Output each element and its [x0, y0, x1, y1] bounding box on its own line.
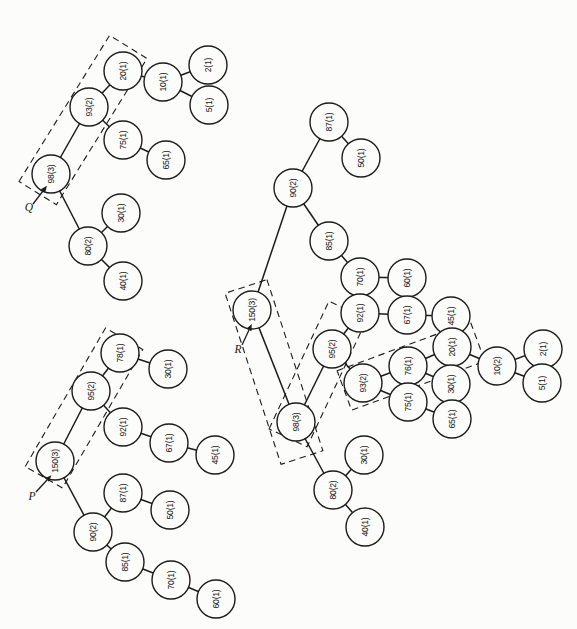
node-key-label: 20(1) — [118, 61, 128, 80]
node-key-label: 45(1) — [446, 306, 456, 325]
tree-node-q-40: 40(1) — [104, 262, 142, 300]
tree-node-r-75: 75(1) — [389, 383, 427, 421]
node-key-label: 60(1) — [211, 589, 221, 608]
tree-node-p-67: 67(1) — [150, 424, 188, 462]
tree-node-q-20: 20(1) — [104, 52, 142, 90]
node-key-label: 76(1) — [403, 356, 413, 375]
node-key-label: 20(1) — [447, 337, 457, 356]
node-key-label: 80(2) — [328, 480, 338, 499]
tree-p: 150(3)95(2)78(1)30(1)92(1)67(1)45(1)90(2… — [25, 328, 235, 618]
tree-node-q-5: 5(1) — [190, 86, 228, 124]
pointer-q: Q — [25, 186, 47, 213]
pointer-letter: Q — [25, 201, 34, 213]
node-key-label: 50(1) — [165, 500, 175, 519]
tree-node-r-40: 40(1) — [346, 508, 384, 546]
tree-node-r-93: 93(2) — [344, 364, 382, 402]
node-key-label: 78(1) — [115, 343, 125, 362]
tree-node-p-87: 87(1) — [104, 474, 142, 512]
tree-node-p-70: 70(1) — [152, 561, 190, 599]
tree-node-r-2: 2(1) — [524, 330, 562, 368]
tree-node-q-80: 80(2) — [69, 227, 107, 265]
node-key-label: 70(1) — [355, 267, 365, 286]
node-key-label: 30(1) — [359, 445, 369, 464]
tree-node-r-90: 90(2) — [274, 169, 312, 207]
node-key-label: 2(1) — [203, 57, 213, 72]
pointer-letter: R — [233, 343, 241, 355]
node-key-label: 87(1) — [118, 483, 128, 502]
node-key-label: 30(1) — [163, 359, 173, 378]
tree-node-q-65: 65(1) — [147, 141, 185, 179]
tree-node-p-78: 78(1) — [101, 334, 139, 372]
tree-node-r-150: 150(3) — [233, 291, 271, 329]
pointer-letter: P — [27, 490, 35, 502]
node-key-label: 65(1) — [447, 409, 457, 428]
tree-q: 98(3)93(2)20(1)10(1)2(1)5(1)75(1)65(1)80… — [19, 35, 228, 300]
tree-node-q-30: 30(1) — [102, 194, 140, 232]
node-key-label: 40(1) — [360, 517, 370, 536]
tree-node-r-5: 5(1) — [523, 364, 561, 402]
node-key-label: 60(1) — [402, 268, 412, 287]
tree-node-r-85: 85(1) — [310, 222, 348, 260]
node-key-label: 75(1) — [403, 392, 413, 411]
node-key-label: 98(3) — [291, 412, 301, 431]
node-key-label: 40(1) — [118, 271, 128, 290]
tree-node-r-87: 87(1) — [310, 103, 348, 141]
tree-node-p-92: 92(1) — [104, 408, 142, 446]
node-key-label: 5(1) — [537, 375, 547, 390]
heap-forest-diagram: 98(3)93(2)20(1)10(1)2(1)5(1)75(1)65(1)80… — [0, 0, 577, 629]
tree-node-q-98: 98(3) — [32, 155, 70, 193]
node-key-label: 150(3) — [247, 298, 257, 322]
node-key-label: 50(1) — [356, 148, 366, 167]
pointer-arrow-line — [36, 480, 47, 492]
node-key-label: 30(1) — [116, 203, 126, 222]
node-key-label: 93(2) — [84, 97, 94, 116]
node-key-label: 90(2) — [88, 522, 98, 541]
tree-node-r-70: 70(1) — [341, 258, 379, 296]
node-key-label: 67(1) — [164, 433, 174, 452]
tree-r: 150(3)90(2)87(1)50(1)85(1)70(1)60(1)98(3… — [225, 103, 562, 546]
tree-node-p-150: 150(3) — [36, 442, 74, 480]
node-key-label: 85(1) — [324, 231, 334, 250]
node-key-label: 98(3) — [46, 164, 56, 183]
node-key-label: 90(2) — [288, 178, 298, 197]
tree-node-r-67: 67(1) — [388, 296, 426, 334]
node-key-label: 10(1) — [158, 72, 168, 91]
node-key-label: 95(2) — [327, 339, 337, 358]
tree-node-q-93: 93(2) — [70, 88, 108, 126]
tree-node-p-50: 50(1) — [151, 491, 189, 529]
tree-node-r-80: 80(2) — [314, 471, 352, 509]
tree-node-r-50: 50(1) — [342, 139, 380, 177]
node-key-label: 80(2) — [83, 236, 93, 255]
tree-node-p-45: 45(1) — [196, 436, 234, 474]
node-key-label: 67(1) — [402, 305, 412, 324]
node-key-label: 92(1) — [355, 303, 365, 322]
tree-node-q-75: 75(1) — [104, 121, 142, 159]
tree-node-p-60: 60(1) — [197, 580, 235, 618]
node-key-label: 65(1) — [161, 150, 171, 169]
tree-node-r-92: 92(1) — [341, 294, 379, 332]
node-key-label: 150(3) — [50, 449, 60, 473]
tree-node-p-90: 90(2) — [74, 513, 112, 551]
tree-node-q-10: 10(1) — [144, 63, 182, 101]
node-key-label: 95(2) — [86, 381, 96, 400]
tree-node-p-30: 30(1) — [149, 350, 187, 388]
node-key-label: 93(2) — [358, 373, 368, 392]
node-key-label: 45(1) — [210, 445, 220, 464]
node-key-label: 70(1) — [166, 570, 176, 589]
tree-node-r-30a: 30(1) — [432, 365, 470, 403]
node-key-label: 85(1) — [120, 552, 130, 571]
tree-node-r-76: 76(1) — [389, 347, 427, 385]
tree-node-r-30b: 30(1) — [345, 436, 383, 474]
scanned-figure-page: 98(3)93(2)20(1)10(1)2(1)5(1)75(1)65(1)80… — [0, 0, 577, 629]
tree-node-r-98: 98(3) — [277, 403, 315, 441]
tree-node-r-20: 20(1) — [433, 328, 471, 366]
node-key-label: 10(2) — [492, 356, 502, 375]
node-key-label: 92(1) — [118, 417, 128, 436]
pointer-p: P — [27, 475, 51, 502]
node-key-label: 2(1) — [538, 341, 548, 356]
tree-node-q-2: 2(1) — [189, 46, 227, 84]
tree-node-r-65: 65(1) — [433, 400, 471, 438]
tree-node-p-95: 95(2) — [72, 372, 110, 410]
tree-node-r-60: 60(1) — [388, 259, 426, 297]
node-key-label: 30(1) — [446, 374, 456, 393]
